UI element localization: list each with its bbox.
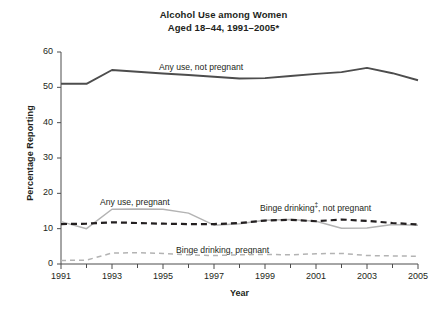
series-line [61, 68, 418, 84]
data-series [61, 68, 418, 261]
series-line [61, 209, 418, 229]
chart-figure: Alcohol Use among Women Aged 18–44, 1991… [0, 0, 447, 311]
series-line [61, 253, 418, 261]
axes [57, 52, 418, 269]
plot-canvas [0, 0, 447, 311]
